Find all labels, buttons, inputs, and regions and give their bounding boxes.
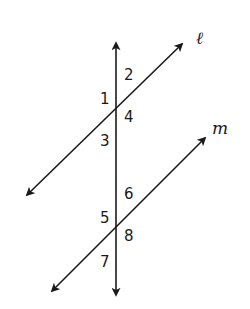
angle-5-label: 5 bbox=[100, 209, 110, 227]
angle-4-label: 4 bbox=[124, 108, 134, 126]
line-m bbox=[52, 138, 205, 291]
angle-8-label: 8 bbox=[124, 227, 134, 245]
diagram-canvas: ℓ m 1 2 3 4 5 6 7 8 bbox=[0, 0, 250, 309]
angle-7-label: 7 bbox=[100, 253, 110, 271]
angle-3-label: 3 bbox=[100, 132, 110, 150]
line-l-label: ℓ bbox=[196, 28, 203, 48]
line-m-label: m bbox=[212, 118, 228, 138]
angle-2-label: 2 bbox=[124, 66, 134, 84]
angle-1-label: 1 bbox=[100, 90, 110, 108]
line-l bbox=[27, 44, 182, 195]
angle-6-label: 6 bbox=[124, 185, 134, 203]
